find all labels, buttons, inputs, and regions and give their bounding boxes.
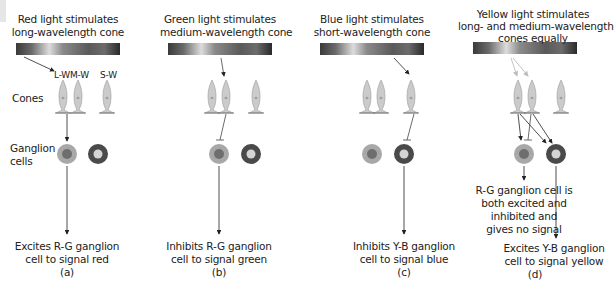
cone-label-lw: L-W bbox=[54, 69, 70, 82]
spectrum-bar-a bbox=[16, 43, 120, 55]
cones-row-label: Cones bbox=[12, 92, 43, 105]
panel-c-label: (c) bbox=[344, 266, 464, 279]
spectrum-bar-b bbox=[168, 43, 272, 55]
panel-d-caption-line2: cell to signal yellow bbox=[494, 255, 614, 268]
panel-b-title-line1: Green light stimulates bbox=[160, 13, 280, 26]
panel-c-title-line2: short-wavelength cone bbox=[312, 26, 432, 39]
panel-d-note-line2: both excited and bbox=[464, 197, 584, 210]
panel-c-caption-line2: cell to signal blue bbox=[344, 253, 464, 266]
ganglion-row-label-line2: cells bbox=[10, 155, 33, 168]
panel-a-title-line2: long-wavelength cone bbox=[8, 26, 128, 39]
panel-c-title-line1: Blue light stimulates bbox=[312, 13, 432, 26]
cone-label-sw: S-W bbox=[100, 69, 117, 82]
ganglion-row-label-line1: Ganglion bbox=[10, 142, 55, 155]
panel-a-label: (a) bbox=[7, 266, 127, 279]
panel-c-graphics bbox=[320, 43, 424, 234]
panel-a-caption-line2: cell to signal red bbox=[7, 253, 127, 266]
panel-d-title-line3: cones equally bbox=[458, 32, 608, 45]
panel-a-caption-line1: Excites R-G ganglion bbox=[7, 240, 127, 253]
panel-b-graphics bbox=[168, 43, 272, 234]
panel-b-caption-line1: Inhibits R-G ganglion bbox=[159, 240, 279, 253]
panel-d-note-line3: inhibited and bbox=[464, 210, 584, 223]
cone-label-mw: M-W bbox=[70, 69, 89, 82]
spectrum-bar-c bbox=[320, 43, 424, 55]
panel-d-label: (d) bbox=[475, 268, 595, 281]
panel-d-note-line1: R-G ganglion cell is bbox=[464, 184, 584, 197]
panel-b-title-line2: medium-wavelength cone bbox=[160, 26, 280, 39]
panel-b-caption-line2: cell to signal green bbox=[159, 253, 279, 266]
panel-b-label: (b) bbox=[159, 266, 279, 279]
panel-d-caption-line1: Excites Y-B ganglion bbox=[494, 242, 614, 255]
panel-d-note-line4: gives no signal bbox=[464, 223, 584, 236]
panel-c-caption-line1: Inhibits Y-B ganglion bbox=[344, 240, 464, 253]
panel-a-title-line1: Red light stimulates bbox=[8, 13, 128, 26]
